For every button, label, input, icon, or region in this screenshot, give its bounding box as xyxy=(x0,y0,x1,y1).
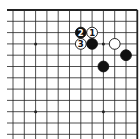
white-stone-3: 3 xyxy=(75,39,86,50)
star-point xyxy=(34,110,37,113)
board-grid xyxy=(7,10,137,139)
move-number: 1 xyxy=(89,28,95,38)
black-stone xyxy=(87,39,98,50)
star-point xyxy=(102,42,105,45)
go-board: 123 xyxy=(0,0,140,139)
black-stone-2: 2 xyxy=(75,27,86,38)
black-stone xyxy=(98,61,109,72)
move-number: 2 xyxy=(78,28,84,38)
white-stone-1: 1 xyxy=(87,27,98,38)
black-stone xyxy=(121,50,132,61)
move-number: 3 xyxy=(78,39,84,49)
star-point xyxy=(102,110,105,113)
white-stone xyxy=(109,39,120,50)
star-point xyxy=(34,42,37,45)
